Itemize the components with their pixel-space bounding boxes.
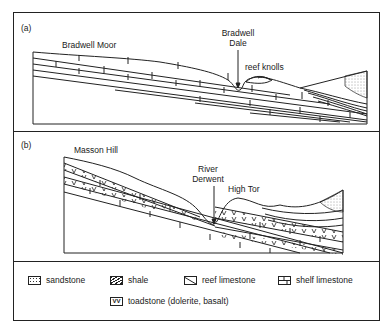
legend-item-sandstone: sandstone <box>28 275 85 285</box>
legend-label-reef-limestone: reef limestone <box>202 275 255 285</box>
legend-label-shale: shale <box>128 275 148 285</box>
legend-item-reef-limestone: reef limestone <box>184 275 255 285</box>
shale-hatch-icon <box>110 276 123 285</box>
legend-item-shale: shale <box>110 275 148 285</box>
legend-item-shelf-limestone: shelf limestone <box>278 275 353 285</box>
legend-label-shelf-limestone: shelf limestone <box>296 275 353 285</box>
shelf-limestone-brick-icon <box>278 276 291 285</box>
legend-label-sandstone: sandstone <box>46 275 85 285</box>
sandstone-dots-icon <box>28 276 41 285</box>
toadstone-vv-icon: VV <box>110 297 123 306</box>
legend-label-toadstone: toadstone (dolerite, basalt) <box>128 296 229 306</box>
reef-limestone-icon <box>184 276 197 285</box>
legend-item-toadstone: VV toadstone (dolerite, basalt) <box>110 296 229 306</box>
